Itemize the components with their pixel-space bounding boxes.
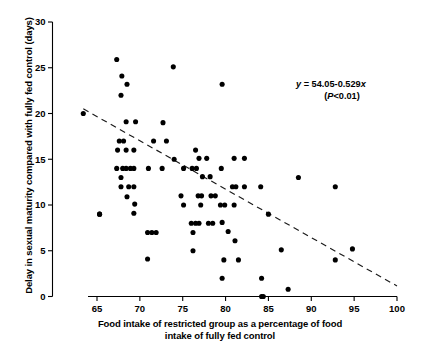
data-point [222,202,227,207]
data-point [160,120,165,125]
data-point [118,175,123,180]
data-point [178,193,183,198]
data-point [151,138,156,143]
data-point [97,212,102,217]
data-point [213,193,218,198]
y-tick-label: 30 [35,16,46,27]
scatter-plot-figure: Delay in sexual maturity compared with f… [0,0,425,349]
x-tick-label: 65 [92,303,103,314]
data-point [296,175,301,180]
data-point [219,166,224,171]
data-points-group [81,57,355,299]
data-point [160,166,165,171]
x-tick-label: 90 [306,303,317,314]
data-point [132,202,137,207]
y-tick-label: 25 [35,62,46,73]
data-point [131,184,136,189]
data-point [333,257,338,262]
data-point [154,230,159,235]
data-point [181,166,186,171]
y-tick-label: 0 [40,291,45,302]
data-point [226,229,231,234]
y-tick-label: 15 [35,154,46,165]
data-point [242,184,247,189]
y-tick-label: 5 [40,245,46,256]
data-point [115,148,120,153]
x-tick-label: 80 [220,303,231,314]
data-point [194,166,199,171]
data-point [131,166,136,171]
data-point [172,157,177,162]
data-point [118,184,123,189]
data-point [210,221,215,226]
data-point [124,82,129,87]
data-point [190,230,195,235]
data-point [164,138,169,143]
data-point [146,166,151,171]
data-point [220,276,225,281]
data-point [286,287,291,292]
x-tick-label: 95 [349,303,360,314]
data-point [232,156,237,161]
x-tick-labels: 65707580859095100 [92,303,405,314]
y-tick-label: 20 [35,108,46,119]
data-point [198,202,203,207]
data-point [118,93,123,98]
data-point [279,247,284,252]
data-point [131,148,136,153]
data-point [124,119,129,124]
data-point [193,148,198,153]
x-tick-label: 100 [389,303,405,314]
data-point [261,294,266,299]
x-tick-label: 75 [177,303,188,314]
data-point [204,156,209,161]
data-point [242,156,247,161]
data-point [181,202,186,207]
data-point [200,174,205,179]
plot-canvas: 65707580859095100 051015202530 [0,0,425,349]
data-point [199,193,204,198]
data-point [259,276,264,281]
data-point [133,119,138,124]
data-point [232,238,237,243]
data-point [221,257,226,262]
data-point [119,73,124,78]
y-tick-label: 10 [35,199,46,210]
data-point [208,174,213,179]
data-point [114,57,119,62]
data-point [333,184,338,189]
data-point [124,148,129,153]
data-point [171,64,176,69]
data-point [126,184,131,189]
data-point [233,184,238,189]
data-point [258,184,263,189]
data-point [114,166,119,171]
data-point [81,111,86,116]
data-point [121,138,126,143]
x-tick-label: 85 [263,303,274,314]
x-tick-label: 70 [135,303,146,314]
data-point [190,248,195,253]
data-point [196,156,201,161]
y-tick-labels: 051015202530 [35,16,46,302]
data-point [220,220,225,225]
data-point [220,82,225,87]
data-point [350,246,355,251]
data-point [131,211,136,216]
data-point [266,212,271,217]
data-point [236,257,241,262]
data-point [145,256,150,261]
data-point [124,194,129,199]
data-point [232,202,237,207]
data-point [196,221,201,226]
